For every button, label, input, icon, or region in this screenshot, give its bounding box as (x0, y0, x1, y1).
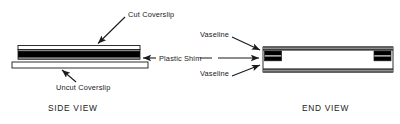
shim-block-left (265, 51, 282, 61)
coverslip-bottom-rail (263, 68, 393, 72)
label-uncut-coverslip: Uncut Coverslip (56, 84, 110, 91)
end-view-assembly (218, 37, 393, 76)
coverslip-top-rail (263, 47, 393, 51)
label-plastic-shim: Plastic Shim (159, 55, 201, 62)
side-view-assembly (12, 17, 212, 82)
figure-canvas: Cut Coverslip Plastic Shim Uncut Coversl… (0, 0, 400, 124)
label-cut-coverslip: Cut Coverslip (128, 11, 174, 18)
arrow-uncut-coverslip (62, 70, 76, 82)
uncut-coverslip-part (12, 62, 148, 68)
chamber-cavity (263, 47, 393, 72)
shim-block-right (374, 51, 391, 61)
arrow-vaseline-top (232, 37, 260, 50)
arrow-cut-coverslip (98, 17, 125, 44)
label-vaseline-bottom: Vaseline (200, 70, 229, 77)
label-vaseline-top: Vaseline (200, 31, 229, 38)
caption-end-view: END VIEW (302, 104, 349, 112)
cut-coverslip-part (18, 46, 140, 50)
arrow-vaseline-bottom (232, 65, 260, 76)
caption-side-view: SIDE VIEW (48, 104, 98, 112)
plastic-shim-part (18, 50, 140, 60)
